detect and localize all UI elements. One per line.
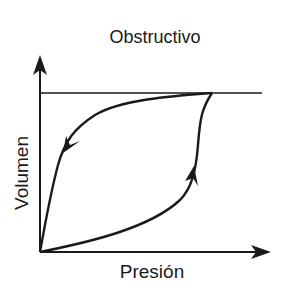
inspiration-curve xyxy=(40,93,212,252)
x-axis-label: Presión xyxy=(0,261,290,283)
y-axis-label: Volumen xyxy=(11,136,33,210)
expiration-arrow-icon xyxy=(63,136,80,153)
expiration-curve xyxy=(40,93,212,252)
pv-loop-diagram xyxy=(0,0,290,295)
